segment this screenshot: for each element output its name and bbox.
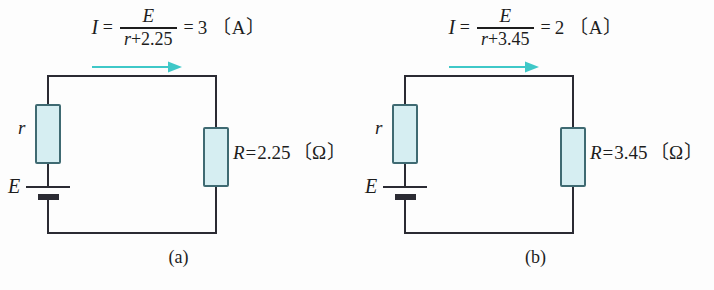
formula-symbol-i-b: I	[449, 17, 456, 37]
formula-current-a: I = E r+2.25 = 3 〔A〕	[0, 6, 357, 48]
load-value-b: 3.45	[614, 142, 647, 163]
circuit-wires-b	[405, 76, 573, 233]
formula-result-b: 2	[555, 18, 565, 37]
formula-denominator-a: r+2.25	[120, 29, 177, 49]
panel-caption-a: (a)	[0, 248, 357, 266]
load-value-a: 2.25	[257, 142, 290, 163]
formula-fraction-a: E r+2.25	[117, 6, 180, 48]
current-arrow-a	[92, 62, 182, 73]
formula-equals-first-a: =	[102, 18, 114, 36]
formula-unit-ampere-b: 〔A〕	[567, 18, 622, 37]
formula-unit-ampere-a: 〔A〕	[210, 18, 265, 37]
load-unit-ohm-a: 〔Ω〕	[291, 142, 347, 163]
load-equals-b: =	[602, 142, 615, 163]
circuit-panel-b: I = E r+3.45 = 2 〔A〕	[357, 0, 714, 290]
resistor-load-a	[204, 128, 228, 186]
resistor-internal-b	[393, 105, 417, 163]
resistor-internal-a	[36, 105, 60, 163]
formula-symbol-i-a: I	[92, 17, 99, 37]
formula-denominator-var-b: r	[481, 29, 488, 49]
resistor-load-b	[561, 128, 585, 186]
label-internal-resistance-a: r	[18, 117, 25, 139]
formula-current-b: I = E r+3.45 = 2 〔A〕	[357, 6, 714, 48]
formula-equals-second-b: =	[540, 18, 552, 36]
load-unit-ohm-b: 〔Ω〕	[648, 142, 704, 163]
formula-denominator-b: r+3.45	[477, 29, 534, 49]
formula-denominator-plus-a: +	[131, 29, 141, 49]
label-emf-source-a: E	[8, 175, 20, 198]
battery-symbol-a	[26, 187, 70, 197]
formula-denominator-var-a: r	[124, 29, 131, 49]
load-symbol-a: R	[233, 142, 245, 163]
formula-denominator-plus-b: +	[488, 29, 498, 49]
load-symbol-b: R	[590, 142, 602, 163]
formula-equals-first-b: =	[459, 18, 471, 36]
circuit-wires-a	[48, 76, 216, 233]
panel-caption-b: (b)	[357, 248, 714, 266]
formula-numerator-b: E	[489, 6, 521, 27]
load-equals-a: =	[245, 142, 258, 163]
current-arrow-b	[449, 62, 539, 73]
circuit-panel-a: I = E r+2.25 = 3 〔A〕	[0, 0, 357, 290]
circuit-figure: I = E r+2.25 = 3 〔A〕	[0, 0, 714, 290]
formula-denominator-value-a: 2.25	[141, 29, 173, 49]
formula-equals-second-a: =	[183, 18, 195, 36]
formula-result-a: 3	[198, 18, 208, 37]
label-load-resistance-a: R=2.25〔Ω〕	[233, 143, 346, 162]
label-emf-source-b: E	[365, 175, 377, 198]
battery-symbol-b	[383, 187, 427, 197]
formula-numerator-a: E	[132, 6, 164, 27]
formula-denominator-value-b: 3.45	[498, 29, 530, 49]
formula-fraction-b: E r+3.45	[474, 6, 537, 48]
label-internal-resistance-b: r	[375, 117, 382, 139]
label-load-resistance-b: R=3.45〔Ω〕	[590, 143, 703, 162]
